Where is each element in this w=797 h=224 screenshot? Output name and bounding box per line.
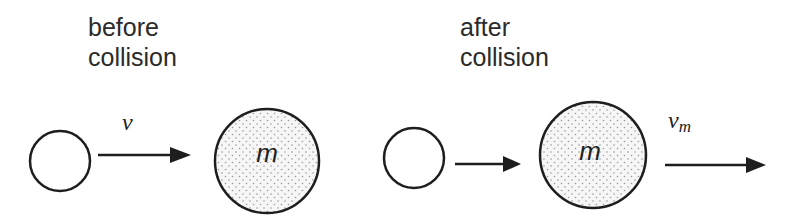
velocity-label-v: v (122, 109, 133, 135)
collision-diagram: v m m vm (0, 0, 797, 224)
mass-label-after: m (579, 136, 601, 166)
velocity-arrow-before (98, 147, 191, 163)
large-ball-arrow-after (665, 157, 766, 173)
panel-before: v m (30, 109, 319, 213)
small-ball-arrow-after (455, 156, 521, 172)
small-ball-before (30, 131, 90, 191)
velocity-label-vm-sub: m (679, 117, 691, 136)
panel-after: m vm (384, 102, 766, 208)
mass-label-before: m (256, 138, 278, 168)
velocity-label-vm: vm (668, 107, 691, 136)
small-ball-after (384, 128, 444, 188)
velocity-label-vm-base: v (668, 107, 679, 133)
